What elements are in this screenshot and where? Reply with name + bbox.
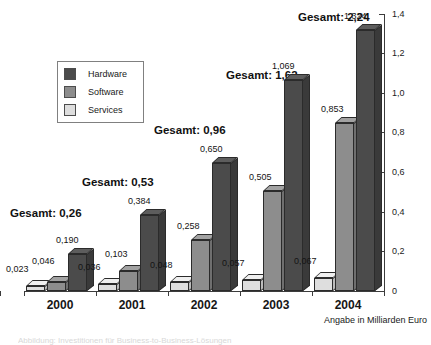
legend-label-services: Services: [88, 105, 123, 115]
x-tick-mark: [168, 291, 169, 296]
bar-services-2000: [26, 286, 45, 291]
x-axis-label-2003: 2003: [240, 299, 312, 312]
bar-front-face: [119, 271, 138, 291]
bar-side-face: [375, 25, 382, 291]
bar-hardware-2001: [140, 215, 159, 291]
legend-swatch-services-icon: [64, 104, 76, 116]
legend: Hardware Software Services: [57, 61, 144, 123]
x-axis-label-2001: 2001: [96, 299, 168, 312]
y-tick-label: 1,4: [392, 10, 405, 19]
bar-front-face: [191, 240, 210, 291]
bar-value-software-2000: 0,046: [32, 257, 55, 266]
bar-value-hardware-2001: 0,384: [128, 197, 151, 206]
legend-label-software: Software: [88, 87, 124, 97]
bar-front-face: [314, 278, 333, 291]
bar-front-face: [68, 254, 87, 291]
bar-value-services-2004: 0,067: [294, 257, 317, 266]
bar-services-2004: [314, 278, 333, 291]
bar-value-services-2003: 0,057: [222, 259, 245, 268]
bar-value-services-2002: 0,048: [150, 261, 173, 270]
bar-value-software-2001: 0,103: [105, 250, 128, 259]
bar-software-2002: [191, 240, 210, 291]
x-axis-label-2002: 2002: [168, 299, 240, 312]
group-total-2002: Gesamt: 0,96: [154, 124, 226, 136]
bar-value-hardware-2000: 0,190: [56, 236, 79, 245]
bar-software-2001: [119, 271, 138, 291]
bar-front-face: [335, 123, 354, 291]
bar-front-face: [140, 215, 159, 291]
x-tick-mark: [240, 291, 241, 296]
bar-services-2001: [98, 284, 117, 291]
group-total-2001: Gesamt: 0,53: [82, 176, 154, 188]
bar-value-services-2001: 0,036: [78, 263, 101, 272]
bar-hardware-2002: [212, 163, 231, 291]
y-tick-label: 0,4: [392, 208, 405, 217]
y-tick-mark: [379, 14, 385, 15]
bar-front-face: [170, 282, 189, 291]
unit-note: Angabe in Milliarden Euro: [324, 315, 427, 325]
y-tick-label: 1,0: [392, 89, 405, 98]
x-axis-label-2000: 2000: [24, 299, 96, 312]
legend-swatch-hardware-icon: [64, 68, 76, 80]
legend-swatch-software-icon: [64, 86, 76, 98]
bar-side-face: [231, 158, 238, 291]
bar-front-face: [47, 282, 66, 291]
x-axis-line: [24, 291, 384, 292]
bar-front-face: [242, 280, 261, 291]
bar-value-hardware-2003: 1,069: [272, 62, 295, 71]
y-tick-label: 1,2: [392, 49, 405, 58]
x-tick-mark: [384, 291, 385, 296]
bar-value-hardware-2004: 1,324: [344, 12, 367, 21]
bar-front-face: [26, 286, 45, 291]
bar-front-face: [98, 284, 117, 291]
y-tick-label: 0,2: [392, 247, 405, 256]
bar-front-face: [212, 163, 231, 291]
bar-value-hardware-2002: 0,650: [200, 145, 223, 154]
y-tick-label: 0,6: [392, 168, 405, 177]
bar-hardware-2000: [68, 254, 87, 291]
bar-software-2000: [47, 282, 66, 291]
bar-value-software-2003: 0,505: [249, 173, 272, 182]
bar-hardware-2004: [356, 30, 375, 291]
x-tick-mark: [96, 291, 97, 296]
legend-label-hardware: Hardware: [88, 69, 127, 79]
bar-software-2003: [263, 191, 282, 291]
bar-services-2003: [242, 280, 261, 291]
y-axis-line: [384, 14, 385, 291]
bar-value-services-2000: 0,023: [6, 265, 29, 274]
group-total-2000: Gesamt: 0,26: [10, 207, 82, 219]
x-tick-mark: [312, 291, 313, 296]
x-axis-label-2004: 2004: [312, 299, 384, 312]
y-tick-label: 0,8: [392, 128, 405, 137]
y-tick-label: 0: [392, 287, 397, 296]
bar-side-face: [159, 210, 166, 291]
x-tick-mark: [0, 291, 1, 296]
bar-software-2004: [335, 123, 354, 291]
bar-front-face: [263, 191, 282, 291]
x-tick-mark: [24, 291, 25, 296]
caption-partial: Abbildung: Investitionen für Business-to…: [18, 336, 413, 345]
bar-value-software-2004: 0,853: [321, 105, 344, 114]
bar-value-software-2002: 0,258: [177, 222, 200, 231]
bar-services-2002: [170, 282, 189, 291]
bar-front-face: [356, 30, 375, 291]
